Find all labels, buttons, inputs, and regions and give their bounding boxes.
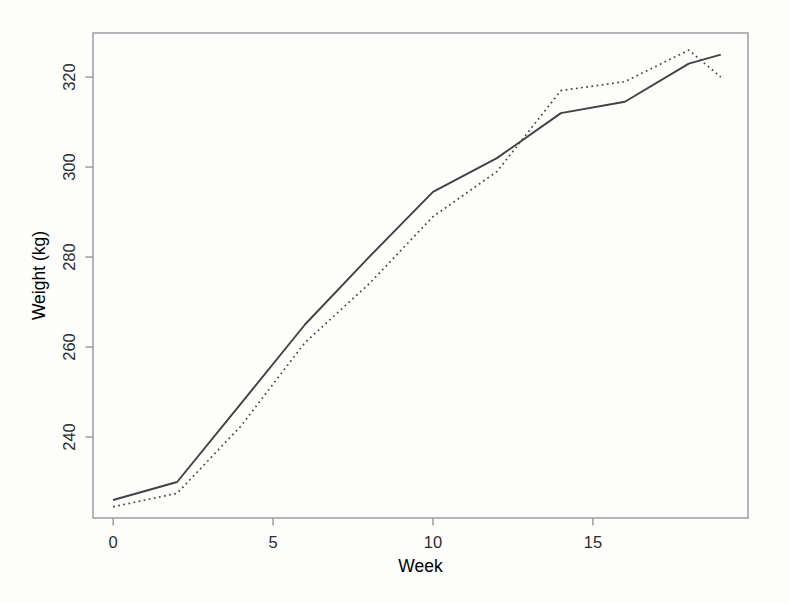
x-axis-tick-label: 15 <box>584 533 602 551</box>
line-chart-figure: 051015240260280300320 Week Weight (kg) <box>0 0 789 603</box>
series-line-solid <box>113 55 721 500</box>
x-axis-tick-label: 10 <box>424 533 442 551</box>
x-axis-title: Week <box>398 556 443 576</box>
x-axis-tick-label: 0 <box>109 533 118 551</box>
y-axis-tick-label: 260 <box>61 333 79 361</box>
plot-area: 051015240260280300320 <box>61 33 749 551</box>
series-line-dotted <box>113 50 721 507</box>
plot-frame <box>93 33 748 518</box>
y-axis-tick-label: 300 <box>61 153 79 181</box>
y-axis-tick-label: 240 <box>61 423 79 451</box>
x-axis-tick-label: 5 <box>268 533 277 551</box>
y-axis-title: Weight (kg) <box>29 231 49 320</box>
line-chart: 051015240260280300320 Week Weight (kg) <box>0 0 789 603</box>
chart-page: 051015240260280300320 Week Weight (kg) <box>0 0 789 603</box>
y-axis-tick-label: 280 <box>61 243 79 271</box>
y-axis-tick-label: 320 <box>61 63 79 91</box>
